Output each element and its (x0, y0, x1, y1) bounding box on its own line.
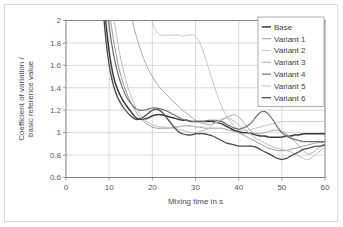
y-tick-label: 1.4 (50, 84, 62, 93)
x-tick-label: 40 (234, 183, 243, 192)
line-chart: 0.60.811.21.41.61.82 0102030405060 Mixin… (0, 0, 343, 227)
chart-legend: BaseVariant 1Variant 2Variant 3Variant 4… (258, 17, 324, 107)
x-tick-label: 20 (148, 183, 157, 192)
y-tick-label: 2 (57, 16, 62, 25)
y-tick-label: 0.8 (50, 151, 62, 160)
x-tick-label: 50 (277, 183, 286, 192)
y-tick-label: 1 (57, 128, 62, 137)
chart-figure: 0.60.811.21.41.61.82 0102030405060 Mixin… (0, 0, 343, 227)
y-tick-label: 1.6 (50, 61, 62, 70)
x-tick-label: 60 (321, 183, 330, 192)
x-axis-tick-labels: 0102030405060 (64, 183, 330, 192)
legend-label: Variant 1 (274, 35, 306, 44)
legend-label: Variant 3 (274, 58, 306, 67)
y-axis-tick-labels: 0.60.811.21.41.61.82 (50, 16, 62, 182)
y-axis-title-text: basic reference value (26, 60, 35, 137)
x-tick-label: 30 (191, 183, 200, 192)
y-axis-title: Coefficient of variation /basic referenc… (17, 56, 35, 140)
legend-label: Variant 5 (274, 82, 306, 91)
x-tick-label: 10 (105, 183, 114, 192)
y-tick-label: 1.8 (50, 39, 62, 48)
y-tick-label: 1.2 (50, 106, 62, 115)
y-axis-title-text: Coefficient of variation / (17, 56, 26, 140)
legend-label: Variant 2 (274, 46, 306, 55)
x-tick-label: 0 (64, 183, 69, 192)
legend-label: Base (274, 23, 293, 32)
y-tick-label: 0.6 (50, 173, 62, 182)
x-axis-title-text: Mixing time in s (168, 197, 223, 206)
x-axis-title: Mixing time in s (168, 197, 223, 206)
legend-label: Variant 4 (274, 70, 306, 79)
legend-label: Variant 6 (274, 94, 306, 103)
